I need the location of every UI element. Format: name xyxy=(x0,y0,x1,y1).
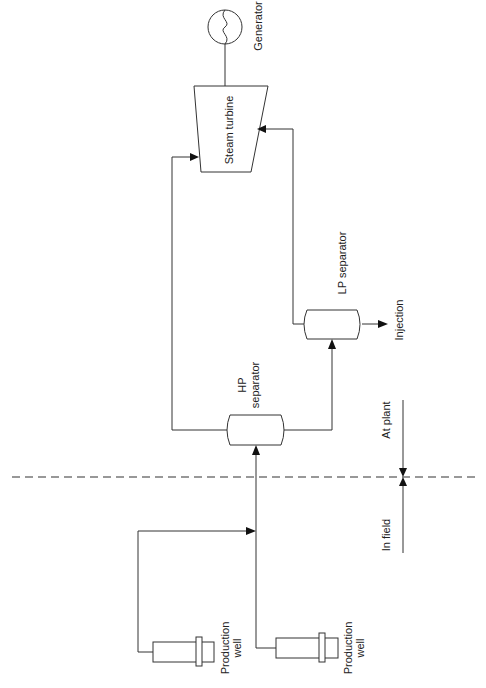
arrow-up-icon xyxy=(399,477,407,486)
wellhead-icon xyxy=(276,638,338,658)
wellhead-flange-icon xyxy=(196,637,202,666)
generator-label: Generator xyxy=(252,1,264,51)
arrow-right-icon xyxy=(190,153,199,161)
production-well-2-label-line1: Production xyxy=(342,622,354,675)
generator: Generator xyxy=(208,1,264,86)
hp-steam-line xyxy=(172,153,227,430)
lp-vessel-icon xyxy=(304,310,360,339)
arrow-right-icon xyxy=(246,527,256,535)
production-well-1: Production well xyxy=(138,527,256,674)
hp-vessel-icon xyxy=(227,415,284,445)
lp-separator: LP separator xyxy=(304,231,360,339)
arrow-up-icon xyxy=(328,339,336,349)
hp-separator-label-line1: HP xyxy=(236,377,248,392)
in-field-label: In field xyxy=(380,519,392,551)
wellhead-icon xyxy=(153,642,214,662)
production-well-1-label-line2: well xyxy=(231,639,243,659)
steam-turbine: Steam turbine xyxy=(194,86,268,172)
lp-steam-line xyxy=(257,125,304,324)
hp-separator-label-line2: separator xyxy=(249,361,261,408)
arrow-down-icon xyxy=(399,468,407,477)
feed-line xyxy=(252,445,260,648)
arrow-right-icon xyxy=(378,320,388,328)
production-well-2-label-line2: well xyxy=(354,639,366,659)
arrow-up-icon xyxy=(252,445,260,455)
geothermal-flow-diagram: Generator Steam turbine LP separator Inj… xyxy=(0,0,486,688)
lp-separator-label: LP separator xyxy=(336,231,348,294)
steam-turbine-label: Steam turbine xyxy=(223,96,235,164)
production-well-1-label-line1: Production xyxy=(219,622,231,675)
injection-outlet: Injection xyxy=(362,300,405,341)
hp-separator: HP separator xyxy=(227,361,284,445)
brine-line xyxy=(284,339,336,430)
wellhead-flange-icon xyxy=(319,633,325,662)
production-well-2: Production well xyxy=(256,622,366,675)
injection-label: Injection xyxy=(393,300,405,341)
at-plant-label: At plant xyxy=(380,401,392,438)
